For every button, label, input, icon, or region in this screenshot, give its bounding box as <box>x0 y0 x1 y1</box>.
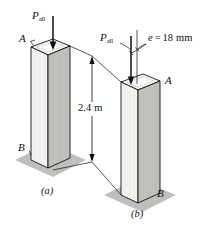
extension-line-top-left <box>70 46 92 56</box>
column-left <box>31 39 70 168</box>
load-symbol-left: P <box>32 9 39 21</box>
dimension-unit: m <box>94 102 102 113</box>
load-symbol-right: P <box>100 31 107 43</box>
load-subscript-right: all <box>107 37 113 44</box>
extension-line-top-right <box>92 56 121 82</box>
point-label-left-top: A <box>19 33 26 44</box>
column-right-side-face <box>138 81 160 203</box>
load-label-left: Pall <box>32 10 45 22</box>
eccentricity-unit: mm <box>176 32 192 43</box>
dimension-label: 2.4m <box>78 103 102 114</box>
eccentricity-value: 18 <box>163 32 174 43</box>
column-right-front-face <box>121 82 138 203</box>
point-label-right-top: A <box>165 75 172 86</box>
column-right <box>121 74 160 203</box>
point-label-right-bottom: B <box>157 188 164 199</box>
load-label-leader-right <box>120 43 130 50</box>
load-subscript-left: all <box>39 15 45 22</box>
caption-left: (a) <box>41 186 53 197</box>
dimension-arrowhead-bottom <box>89 154 94 162</box>
point-label-left-bottom: B <box>18 142 25 153</box>
eccentricity-equals: = <box>155 32 161 43</box>
column-left-side-face <box>48 46 70 168</box>
figure-canvas: Pall Pall e=18mm 2.4m A B A B (a) (b) <box>0 0 209 229</box>
extension-line-bottom-right <box>92 162 121 195</box>
load-label-right: Pall <box>100 32 113 44</box>
caption-right: (b) <box>131 209 143 220</box>
dimension-value: 2.4 <box>78 102 91 113</box>
column-left-front-face <box>31 47 48 168</box>
eccentricity-leaders <box>130 44 147 55</box>
eccentricity-label: e=18mm <box>148 33 192 44</box>
eccentricity-variable: e <box>148 32 153 43</box>
